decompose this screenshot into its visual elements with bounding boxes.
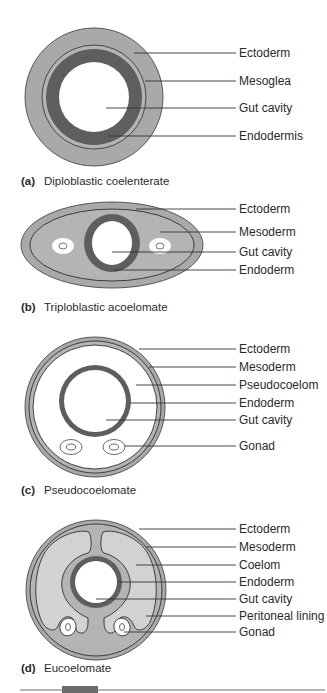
caption-letter-c: (c) [21,484,35,496]
rule-marker [62,686,98,693]
gut-cavity [59,62,129,132]
panel-d-eucoelomate: Ectoderm Mesoderm Coelom Endoderm Gut ca… [21,520,324,674]
gonad-left [60,440,82,455]
label-mesoderm: Mesoderm [239,360,296,374]
body-plan-diagram: Ectoderm Mesoglea Gut cavity Endodermis … [0,0,327,693]
label-gut-cavity: Gut cavity [239,413,292,427]
caption-text-d: Eucoelomate [44,662,111,674]
label-endoderm: Endoderm [239,263,294,277]
label-ectoderm: Ectoderm [239,46,290,60]
caption-text-b: Triploblastic acoelomate [44,301,168,313]
label-ectoderm: Ectoderm [239,522,290,536]
panel-a-cross-section [25,28,163,166]
label-coelom: Coelom [239,558,280,572]
panel-c-cross-section [25,337,165,477]
gonad-right [103,440,125,455]
caption-letter-d: (d) [21,662,36,674]
gut-cavity [92,221,132,265]
gonad-left [52,238,74,254]
panel-a-diploblastic: Ectoderm Mesoglea Gut cavity Endodermis … [21,28,303,187]
caption-text-a: Diploblastic coelenterate [44,175,169,187]
bottom-rule [20,686,325,693]
label-pseudocoelom: Pseudocoelom [239,378,318,392]
label-gut-cavity: Gut cavity [239,101,292,115]
label-mesoderm: Mesoderm [239,225,296,239]
gut-cavity [64,370,126,432]
panel-d-cross-section [26,520,166,660]
caption-text-c: Pseudocoelomate [44,484,136,496]
label-gut-cavity: Gut cavity [239,245,292,259]
label-gonad: Gonad [239,439,275,453]
label-gonad: Gonad [239,625,275,639]
caption-letter-a: (a) [21,175,35,187]
label-ectoderm: Ectoderm [239,202,290,216]
label-peritoneal-lining: Peritoneal lining [239,609,324,623]
panel-c-pseudocoelomate: Ectoderm Mesoderm Pseudocoelom Endoderm … [21,337,318,496]
label-mesoderm: Mesoderm [239,540,296,554]
label-endoderm: Endoderm [239,396,294,410]
panel-b-acoelomate: Ectoderm Mesoderm Gut cavity Endoderm (b… [21,202,296,313]
panel-b-cross-section [21,202,203,288]
label-endoderm: Endoderm [239,575,294,589]
label-ectoderm: Ectoderm [239,342,290,356]
label-mesoglea: Mesoglea [239,74,291,88]
caption-letter-b: (b) [21,301,36,313]
label-gut-cavity: Gut cavity [239,592,292,606]
label-endodermis: Endodermis [239,129,303,143]
gut-cavity [75,561,117,603]
